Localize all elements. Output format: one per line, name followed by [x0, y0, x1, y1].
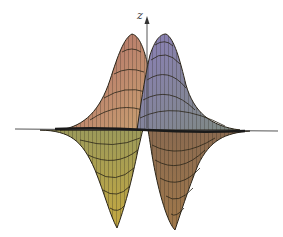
- lower-left-lobe: [40, 130, 143, 228]
- z-axis-label: z: [137, 9, 143, 22]
- upper-left-lobe: [60, 34, 148, 130]
- lower-right-lobe: [148, 130, 250, 230]
- surface-plot: [0, 0, 283, 237]
- upper-right-lobe: [137, 34, 240, 130]
- z-axis-arrow-icon: [145, 16, 150, 24]
